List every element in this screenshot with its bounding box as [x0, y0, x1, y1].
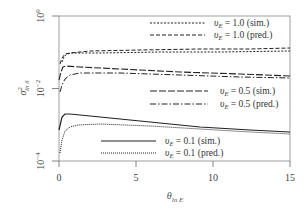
line-1-0-pred	[60, 48, 290, 64]
y-axis-title: σ2ln δ	[16, 80, 31, 96]
x-axis-title: θln E	[167, 190, 184, 204]
legend-item-0: υE = 1.0 (sim.)	[214, 18, 269, 29]
legend-item-2: υE = 0.5 (sim.)	[220, 86, 275, 97]
x-tick-label-1: 5	[134, 172, 139, 183]
legend-item-4: υE = 0.1 (sim.)	[165, 136, 220, 147]
line-1-0-sim	[62, 51, 290, 62]
y-tick-label-0: 100	[34, 9, 46, 23]
x-tick-label-0: 0	[57, 172, 62, 183]
legend-item-1: υE = 1.0 (pred.)	[214, 30, 272, 41]
y-tick-label-2: 10−4	[34, 152, 46, 170]
legend-item-5: υE = 0.1 (pred.)	[165, 148, 223, 159]
legend-item-3: υE = 0.5 (pred.)	[220, 99, 278, 110]
y-axis: 100 10−2 10−4 σ2ln δ	[16, 9, 59, 170]
x-tick-label-3: 15	[285, 172, 295, 183]
y-tick-label-1: 10−2	[34, 79, 46, 97]
x-tick-label-2: 10	[208, 172, 218, 183]
line-0-5-sim	[59, 66, 290, 80]
legend: υE = 1.0 (sim.) υE = 1.0 (pred.) υE = 0.…	[101, 18, 278, 159]
chart: 100 10−2 10−4 σ2ln δ 0 5 10 15 θln E	[0, 0, 307, 208]
x-axis: 0 5 10 15 θln E	[57, 161, 296, 204]
line-0-1-sim	[59, 114, 290, 132]
